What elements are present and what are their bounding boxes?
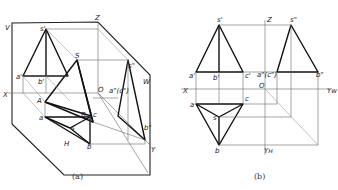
label-v-plane: V xyxy=(5,24,11,32)
label-yh-axis: Yʜ xyxy=(264,147,273,155)
label-z-axis-b: Z xyxy=(266,16,272,24)
top-view-edge-as xyxy=(45,117,70,128)
panel-a-pictorial: V Z s' S s" W a' b' O a"(c") X A B c a s… xyxy=(2,14,156,181)
y-axis-h xyxy=(98,93,148,173)
label-x-axis-b: X xyxy=(182,87,188,95)
label-w-plane: W xyxy=(143,78,151,86)
label-B: B xyxy=(81,111,86,119)
label-origin-b: O xyxy=(259,82,265,90)
label-c-front-b: c' xyxy=(245,72,251,80)
label-s-front-b: s' xyxy=(217,16,223,24)
caption-a: (a) xyxy=(72,172,83,181)
projector-s-front xyxy=(46,29,77,60)
label-s-top-b: s xyxy=(213,114,217,122)
label-z-axis: Z xyxy=(94,14,100,22)
projector-b-diag xyxy=(46,76,70,101)
label-h-plane: H xyxy=(64,140,70,148)
label-b-front: b' xyxy=(38,78,44,86)
label-s-side-b: s" xyxy=(290,16,297,24)
side-view-triangle-b xyxy=(277,25,318,72)
label-s-side: s" xyxy=(128,62,135,70)
label-b-top: b xyxy=(87,143,92,151)
label-A: A xyxy=(36,97,42,105)
label-a-front-b: a' xyxy=(189,72,195,80)
label-c-top: c xyxy=(93,111,97,119)
label-origin-a: O xyxy=(98,86,104,94)
label-s-front: s' xyxy=(40,25,46,33)
label-y-axis: Y xyxy=(151,146,156,154)
label-a-top-b: a xyxy=(190,101,194,109)
label-b-side: b" xyxy=(144,124,152,132)
projection-planes-frame xyxy=(12,22,150,175)
projector-b-side xyxy=(93,122,145,140)
label-c-top-b: c xyxy=(245,95,249,103)
panel-b-three-view: s' Z s" a' b' c' a"(c") b" O X Yᴡ c a s … xyxy=(181,16,337,181)
label-yw-axis: Yᴡ xyxy=(327,87,337,95)
label-b-top-b: b xyxy=(215,147,220,155)
label-ac-side-b: a"(c") xyxy=(257,71,277,79)
label-b-front-b: b' xyxy=(213,74,219,82)
label-S: S xyxy=(75,52,80,60)
label-a-top: a xyxy=(39,114,43,122)
side-view-triangle xyxy=(118,60,145,140)
label-a-front: a' xyxy=(16,73,22,81)
label-x-axis: X xyxy=(2,91,8,99)
caption-b: (b) xyxy=(254,172,265,181)
projector-z-side xyxy=(98,29,128,60)
label-b-side-b: b" xyxy=(316,71,324,79)
label-s-top: s xyxy=(71,124,75,132)
label-ac-side: a"(c") xyxy=(109,87,129,95)
pyramid-projection-diagram: V Z s' S s" W a' b' O a"(c") X A B c a s… xyxy=(0,0,338,190)
